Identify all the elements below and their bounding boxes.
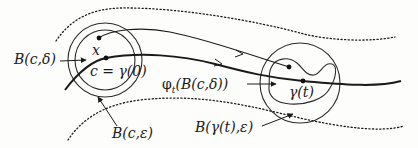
label-ball-c-epsilon: B(c,ε) — [112, 126, 153, 140]
diagram-canvas: B(c,δ) x c = γ(0) B(c,ε) φt(B(c,δ)) γ(t)… — [0, 0, 418, 148]
point-x — [97, 36, 102, 41]
point-gamma-t — [301, 79, 306, 84]
label-point-x: x — [92, 43, 100, 57]
label-ball-c-delta: B(c,δ) — [14, 52, 56, 66]
label-point-c: c = γ(0) — [90, 64, 147, 78]
point-c — [104, 56, 109, 61]
pointer-ball-c-delta — [60, 60, 86, 61]
point-phi-x — [287, 65, 292, 70]
flow-phi-symbol: φ — [162, 76, 172, 92]
trajectory-x — [99, 29, 289, 67]
tube-upper-boundary — [56, 8, 395, 41]
label-ball-gamma-t-epsilon: B(γ(t),ε) — [195, 120, 253, 134]
label-flow-image: φt(B(c,δ)) — [162, 77, 228, 95]
flow-argument: (B(c,δ)) — [175, 76, 228, 92]
label-gamma-t: γ(t) — [289, 85, 314, 99]
